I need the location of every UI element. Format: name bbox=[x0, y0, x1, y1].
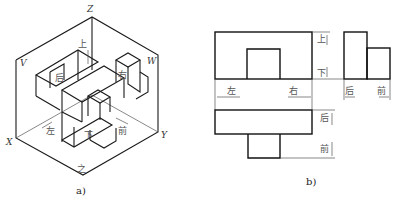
caption-b: b) bbox=[306, 176, 316, 187]
label-side-front: 前 bbox=[377, 85, 386, 96]
axis-x-label: X bbox=[5, 137, 13, 147]
plane-v-label: V bbox=[20, 58, 28, 68]
orthographic-views: 上 下 左 右 后 前 后 前 b) bbox=[215, 32, 390, 187]
edge bbox=[128, 67, 140, 92]
label-up: 上 bbox=[317, 34, 326, 44]
caption-a: a) bbox=[76, 185, 86, 196]
top-view-outline bbox=[215, 110, 312, 134]
label-up: 上 bbox=[78, 39, 87, 49]
edge bbox=[62, 112, 82, 122]
label-down: 下 bbox=[317, 68, 326, 78]
diagram-canvas: Z V W X Y 上 后 右 左 下 前 之 a) bbox=[0, 0, 396, 200]
label-top-front: 前 bbox=[320, 143, 329, 154]
top-view-protrusion bbox=[248, 134, 280, 158]
label-back: 后 bbox=[55, 73, 64, 83]
label-bottom-mark: 之 bbox=[77, 163, 86, 174]
label-right: 右 bbox=[289, 85, 298, 96]
axis-z-label: Z bbox=[86, 4, 94, 14]
axis-y-label: Y bbox=[161, 130, 168, 140]
side-view-front-rect bbox=[367, 48, 390, 79]
label-front: 前 bbox=[118, 125, 127, 136]
right-block-top bbox=[116, 53, 140, 67]
isometric-view: Z V W X Y 上 后 右 左 下 前 之 a) bbox=[5, 4, 168, 196]
label-right: 右 bbox=[118, 69, 127, 80]
edge bbox=[136, 72, 148, 99]
edge bbox=[90, 128, 116, 148]
label-down: 下 bbox=[84, 130, 93, 140]
front-view-outline bbox=[215, 32, 312, 79]
plane-w-label: W bbox=[147, 56, 157, 66]
edge bbox=[36, 96, 60, 110]
label-top-back: 后 bbox=[320, 113, 329, 123]
rear-bar-top bbox=[36, 50, 98, 86]
label-side-back: 后 bbox=[345, 86, 354, 96]
label-left: 左 bbox=[46, 125, 55, 136]
front-arrow bbox=[116, 118, 128, 124]
front-view-inner-notch bbox=[247, 49, 280, 79]
side-view-back-rect bbox=[344, 32, 367, 79]
label-left: 左 bbox=[227, 85, 236, 96]
front-block-top bbox=[62, 66, 124, 102]
